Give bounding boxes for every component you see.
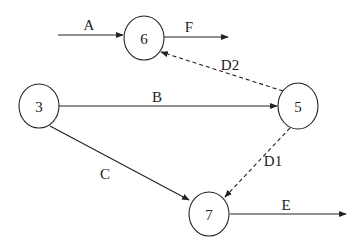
- node-5-label: 5: [294, 99, 302, 115]
- edge-f-label: F: [185, 19, 193, 35]
- edge-c-arrow: [50, 126, 189, 200]
- network-diagram: 6 3 5 7 A F B C D2 D1 E: [0, 0, 361, 241]
- node-7: 7: [189, 192, 229, 236]
- edge-d2-label: D2: [221, 57, 239, 73]
- edge-a-label: A: [84, 17, 95, 33]
- node-5: 5: [278, 83, 318, 129]
- edge-c-label: C: [100, 166, 110, 182]
- node-3-label: 3: [35, 99, 43, 115]
- node-3: 3: [19, 84, 59, 128]
- node-7-label: 7: [205, 207, 213, 223]
- edge-d1-label: D1: [264, 153, 282, 169]
- edge-e-label: E: [281, 197, 290, 213]
- node-6-label: 6: [140, 31, 148, 47]
- node-6: 6: [124, 16, 164, 60]
- edge-b-label: B: [152, 89, 162, 105]
